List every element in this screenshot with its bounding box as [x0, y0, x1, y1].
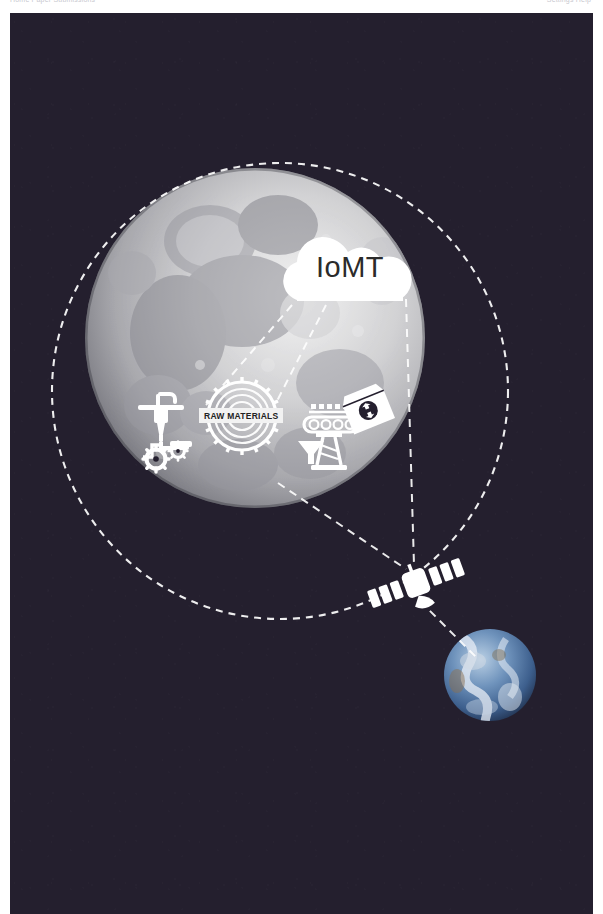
iomt-cloud-label: IoMT [269, 225, 431, 305]
figure-canvas: IoMT RAW MATERIALS [10, 13, 593, 914]
figure-page: Home Paper Submissions Settings Help [0, 0, 603, 914]
satellite [363, 547, 471, 625]
scan-header-left: Home Paper Submissions [10, 0, 95, 3]
scan-header: Home Paper Submissions Settings Help [0, 0, 603, 13]
iomt-cloud[interactable]: IoMT [269, 225, 431, 305]
raw-materials-label: RAW MATERIALS [199, 408, 283, 423]
satellite-layer [10, 13, 593, 914]
scan-header-right: Settings Help [547, 0, 591, 3]
